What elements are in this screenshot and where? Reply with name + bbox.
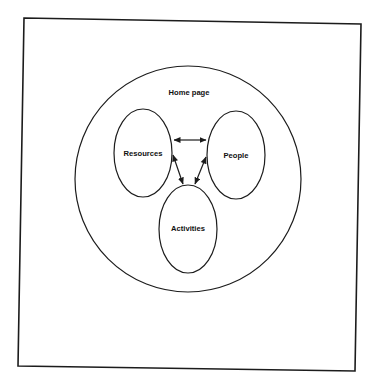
- home-page-label: Home page: [169, 88, 210, 97]
- arrow-resources-activities: [173, 155, 183, 184]
- arrow-people-activities: [195, 157, 206, 184]
- activities-label: Activities: [171, 224, 205, 233]
- people-label: People: [224, 151, 249, 160]
- diagram-canvas: Home page Resources People Activities: [0, 0, 381, 388]
- resources-label: Resources: [124, 149, 163, 158]
- node-activities: Activities: [159, 185, 217, 273]
- node-resources: Resources: [114, 109, 172, 197]
- node-people: People: [207, 111, 265, 199]
- connections: [173, 140, 206, 184]
